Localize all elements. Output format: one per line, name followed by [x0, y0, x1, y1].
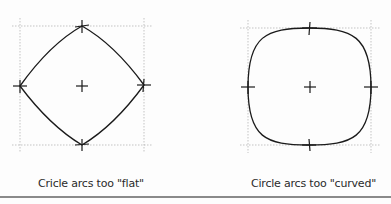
bottom-divider: [0, 196, 391, 198]
flat-caption: Cricle arcs too "flat": [38, 177, 144, 190]
flat-figure-marks: [13, 20, 151, 151]
diagram-canvas: Cricle arcs too "flat" Circle arcs too "…: [0, 0, 391, 204]
diagram-svg: [0, 0, 391, 204]
curved-figure-marks: [241, 22, 378, 151]
curved-caption: Circle arcs too "curved": [251, 177, 376, 190]
